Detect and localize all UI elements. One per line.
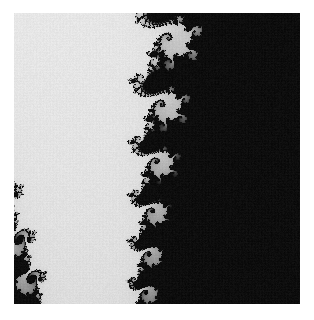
fractal-canvas bbox=[14, 13, 300, 304]
page-root: Mandelbrot Set Fractal Render bbox=[0, 0, 314, 320]
fractal-image bbox=[14, 13, 300, 304]
